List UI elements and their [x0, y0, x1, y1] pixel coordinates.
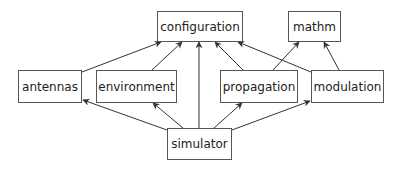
edge-antennas-configuration [82, 42, 161, 72]
dependency-diagram: configuration mathm antennas environment… [0, 0, 402, 170]
edge-propagation-configuration [215, 42, 243, 70]
node-antennas: antennas [18, 70, 82, 103]
node-configuration: configuration [157, 11, 243, 42]
node-environment: environment [96, 70, 177, 103]
edge-modulation-mathm [324, 42, 339, 70]
node-modulation: modulation [311, 70, 384, 103]
edge-simulator-environment [153, 103, 183, 128]
edge-modulation-configuration [238, 42, 311, 72]
edge-simulator-modulation [232, 101, 310, 130]
node-simulator: simulator [167, 128, 232, 160]
edge-simulator-propagation [214, 103, 242, 128]
edge-environment-configuration [152, 42, 182, 70]
node-mathm: mathm [288, 11, 341, 42]
node-propagation: propagation [220, 70, 298, 103]
